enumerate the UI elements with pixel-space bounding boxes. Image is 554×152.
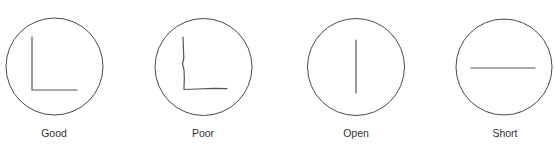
label-open: Open [343, 127, 369, 139]
circle-outline [6, 18, 103, 115]
panel-short: Short [456, 19, 552, 139]
label-good: Good [41, 127, 67, 139]
diagram-canvas: Good Poor Open Short [0, 0, 554, 152]
good-l-trace [32, 37, 77, 90]
panel-good: Good [6, 18, 103, 139]
panel-open: Open [308, 19, 405, 140]
panel-poor: Poor [155, 19, 252, 140]
label-poor: Poor [192, 127, 215, 139]
circle-outline [155, 19, 252, 116]
poor-wobbly-l-trace [183, 37, 228, 90]
label-short: Short [492, 127, 517, 139]
circle-outline [456, 19, 552, 115]
